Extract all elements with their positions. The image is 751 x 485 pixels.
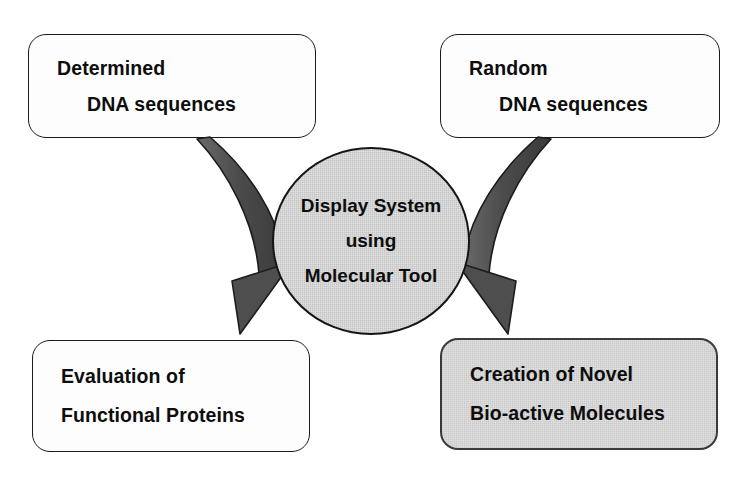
hub-line2: using bbox=[346, 231, 397, 251]
node-determined-line1: Determined bbox=[29, 57, 315, 80]
curved-arrow-icon-right bbox=[456, 137, 551, 334]
node-creation-bioactive-molecules[interactable]: Creation of Novel Bio-active Molecules bbox=[440, 338, 718, 450]
node-random-line1: Random bbox=[441, 57, 719, 80]
hub-line1: Display System bbox=[301, 196, 441, 216]
node-random-line2: DNA sequences bbox=[441, 93, 719, 116]
node-determined-dna-sequences[interactable]: Determined DNA sequences bbox=[28, 34, 316, 138]
hub-line3: Molecular Tool bbox=[305, 266, 438, 286]
node-display-system-hub[interactable]: Display System using Molecular Tool bbox=[272, 147, 470, 335]
node-evaluation-functional-proteins[interactable]: Evaluation of Functional Proteins bbox=[32, 340, 310, 452]
diagram-canvas: Determined DNA sequences Random DNA sequ… bbox=[0, 0, 751, 485]
node-creation-line2: Bio-active Molecules bbox=[442, 402, 716, 425]
node-determined-line2: DNA sequences bbox=[29, 93, 315, 116]
node-creation-line1: Creation of Novel bbox=[442, 363, 716, 386]
node-evaluation-line2: Functional Proteins bbox=[33, 404, 309, 427]
node-random-dna-sequences[interactable]: Random DNA sequences bbox=[440, 34, 720, 138]
node-evaluation-line1: Evaluation of bbox=[33, 365, 309, 388]
